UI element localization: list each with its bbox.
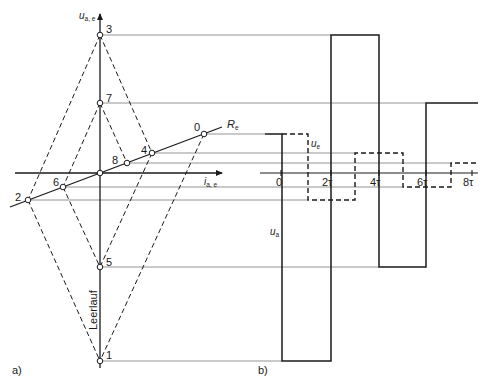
ua-waveform bbox=[265, 35, 478, 361]
diagram-canvas: 0 1 2 3 4 5 6 7 8 ua, e ia, e Re Leerlau… bbox=[0, 0, 483, 388]
dash-2-1 bbox=[28, 200, 100, 361]
operating-points bbox=[25, 32, 207, 364]
point-5-label: 5 bbox=[106, 256, 112, 268]
point-2-label: 2 bbox=[15, 191, 21, 203]
point-6-marker bbox=[60, 184, 66, 190]
ue-label: ue bbox=[311, 138, 321, 150]
tick-label-0: 0 bbox=[276, 176, 282, 188]
point-1-marker bbox=[97, 358, 103, 364]
point-0-marker bbox=[201, 131, 207, 137]
y-axis-label: ua, e bbox=[79, 10, 96, 22]
point-7-marker bbox=[97, 100, 103, 106]
point-3-label: 3 bbox=[106, 23, 112, 35]
point-5-marker bbox=[97, 264, 103, 270]
point-8-label: 8 bbox=[112, 154, 118, 166]
dash-0-1 bbox=[100, 134, 204, 361]
dash-7-6 bbox=[63, 103, 100, 187]
panel-a-label: a) bbox=[12, 364, 22, 376]
dash-6-5 bbox=[63, 187, 100, 267]
panel-b-label: b) bbox=[258, 364, 268, 376]
point-8-marker bbox=[124, 160, 130, 166]
panel-a-axes bbox=[10, 14, 222, 368]
dash-3-2 bbox=[28, 35, 100, 200]
point-1-label: 1 bbox=[106, 349, 112, 361]
point-labels: 0 1 2 3 4 5 6 7 8 bbox=[15, 23, 200, 361]
point-0-label: 0 bbox=[194, 121, 200, 133]
tick-label-8tau: 8τ bbox=[463, 176, 474, 188]
point-3-marker bbox=[97, 32, 103, 38]
leerlauf-label: Leerlauf bbox=[87, 289, 99, 330]
point-7-label: 7 bbox=[106, 92, 112, 104]
point-6-label: 6 bbox=[53, 176, 59, 188]
x-axis-label: ia, e bbox=[204, 176, 217, 188]
point-4-label: 4 bbox=[141, 144, 147, 156]
origin-marker bbox=[97, 170, 103, 176]
time-tick-labels: 0 2τ 4τ 6τ 8τ bbox=[276, 176, 474, 188]
point-4-marker bbox=[149, 150, 155, 156]
construction-lines bbox=[28, 35, 204, 361]
load-line-re bbox=[10, 127, 222, 207]
load-line-label: Re bbox=[227, 118, 239, 131]
ua-label: ua bbox=[270, 226, 280, 238]
panel-b-axes bbox=[260, 170, 478, 176]
point-2-marker bbox=[25, 197, 31, 203]
